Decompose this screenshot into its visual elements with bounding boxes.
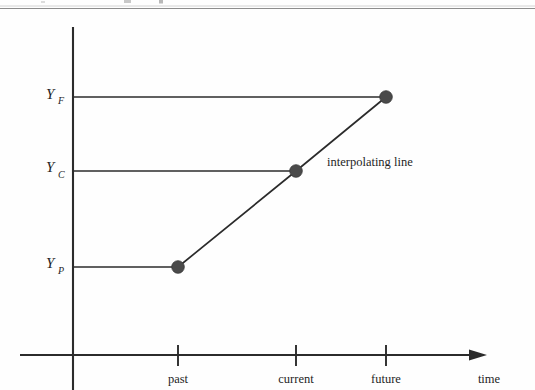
reference-lines [73,97,386,267]
plot-svg: Y F Y C Y P past current future time int… [0,0,535,390]
interpolating-line [178,97,386,267]
axes [20,27,487,390]
x-axis-title: time [478,372,501,386]
data-point-future[interactable] [380,91,393,104]
y-label-current-base: Y [46,159,56,175]
x-axis-labels: past current future time [168,372,501,386]
y-label-future-subscript: F [57,95,65,106]
page-top-rule [0,0,535,9]
y-label-past-base: Y [46,255,56,271]
annotation-interpolating-line: interpolating line [327,155,413,169]
data-point-current[interactable] [290,165,303,178]
y-axis-labels: Y F Y C Y P [46,86,65,276]
y-label-past-subscript: P [57,265,64,276]
figure-canvas: Y F Y C Y P past current future time int… [0,0,535,390]
interpolating-polyline [178,97,386,267]
annotation-group: interpolating line [327,155,413,169]
x-label-current: current [278,372,314,386]
data-point-past[interactable] [172,261,185,274]
y-label-future-base: Y [46,86,56,102]
x-axis-arrow-icon [469,350,487,361]
x-label-past: past [168,372,189,386]
x-label-future: future [371,372,401,386]
y-label-current-subscript: C [58,169,65,180]
